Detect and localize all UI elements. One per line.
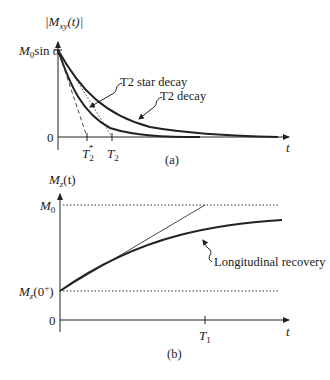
recovery-pointer — [203, 240, 212, 262]
svg-text:M0sin α: M0sin α — [18, 43, 60, 60]
svg-text:Mz(0+): Mz(0+) — [18, 283, 54, 301]
panel-a-y-axis-label: |M — [45, 14, 61, 29]
t2-pointer — [139, 97, 162, 119]
panel-b-caption: (b) — [167, 347, 182, 361]
panel-a-caption: (a) — [165, 153, 179, 167]
svg-text:M0: M0 — [39, 198, 56, 215]
panel-a: |Mxy(t)| M0sin α 0 T2* T2 t T2 star deca… — [18, 14, 290, 167]
longitudinal-recovery-annotation: Longitudinal recovery — [214, 255, 326, 269]
recovery-tangent-line — [60, 205, 205, 291]
svg-text:T2: T2 — [107, 146, 119, 163]
t2-decay-annotation: T2 decay — [160, 89, 207, 103]
svg-text:|Mxy(t)|: |Mxy(t)| — [45, 14, 83, 31]
svg-text:T1: T1 — [199, 328, 211, 345]
t2-star-decay-annotation: T2 star decay — [120, 75, 188, 89]
svg-text:T2*: T2* — [82, 143, 94, 163]
panel-b-zero-label: 0 — [49, 313, 56, 328]
mri-relaxation-figure: |Mxy(t)| M0sin α 0 T2* T2 t T2 star deca… — [0, 0, 330, 380]
panel-a-zero-label: 0 — [47, 130, 54, 145]
t2-star-pointer — [90, 83, 122, 107]
panel-a-x-axis-label: t — [286, 140, 290, 155]
panel-b: Mz(t) M0 Mz(0+) 0 T1 t Longitudinal reco… — [18, 172, 326, 361]
svg-text:Mz(t): Mz(t) — [48, 172, 76, 189]
panel-b-x-axis-label: t — [286, 324, 290, 339]
